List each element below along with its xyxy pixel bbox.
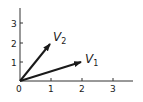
origin-label: 0 <box>16 84 22 94</box>
vector-v1-label: V1 <box>85 52 98 68</box>
x-tick-label-1: 1 <box>48 84 54 94</box>
vector-diagram: 1 2 3 0 1 2 3 V1 V2 <box>0 0 143 102</box>
y-tick-label-1: 1 <box>11 58 17 68</box>
y-tick-label-3: 3 <box>11 19 17 29</box>
x-tick-label-2: 2 <box>79 84 85 94</box>
y-tick-label-2: 2 <box>11 39 17 49</box>
x-tick-label-3: 3 <box>110 84 116 94</box>
vector-v2-label: V2 <box>53 30 66 46</box>
